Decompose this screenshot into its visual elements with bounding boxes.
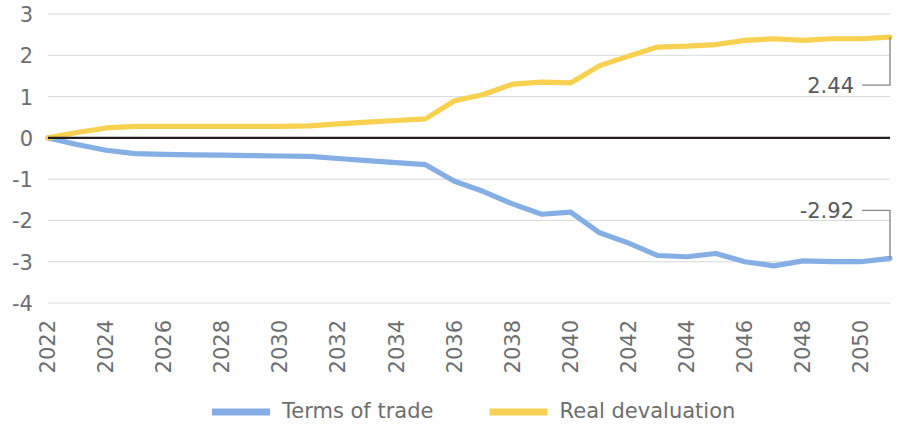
data-series [48, 37, 890, 266]
y-axis-tick-label: 3 [20, 3, 33, 27]
legend-label-2[interactable]: Real devaluation [560, 399, 736, 423]
annotation-value-label: 2.44 [807, 74, 854, 98]
chart-container: 3210-1-2-3-4 202220242026202820302032203… [0, 0, 903, 431]
x-axis-tick-label: 2042 [617, 320, 641, 373]
legend-label-1[interactable]: Terms of trade [281, 399, 433, 423]
series-line-2 [48, 37, 890, 138]
x-axis-tick-label: 2044 [675, 320, 699, 373]
annotation-leader-line [862, 210, 890, 258]
x-axis-tick-label: 2024 [94, 320, 118, 373]
x-axis-tick-labels: 2022202420262028203020322034203620382040… [36, 320, 873, 373]
y-axis-tick-label: 0 [20, 127, 33, 151]
x-axis-tick-label: 2038 [501, 320, 525, 373]
x-axis-tick-label: 2032 [326, 320, 350, 373]
x-axis-tick-label: 2046 [733, 320, 757, 373]
x-axis-tick-label: 2028 [210, 320, 234, 373]
annotation-leader-line [862, 37, 890, 85]
x-axis-tick-label: 2034 [385, 320, 409, 373]
x-axis-tick-label: 2036 [443, 320, 467, 373]
x-axis-tick-label: 2050 [849, 320, 873, 373]
y-axis-tick-label: 2 [20, 44, 33, 68]
series-line-1 [48, 138, 890, 266]
y-axis-tick-label: -3 [12, 251, 33, 275]
line-chart: 3210-1-2-3-4 202220242026202820302032203… [0, 0, 903, 431]
x-axis-tick-label: 2026 [152, 320, 176, 373]
y-axis-tick-label: -1 [12, 168, 33, 192]
x-axis-tick-label: 2022 [36, 320, 60, 373]
y-axis-tick-label: -2 [12, 209, 33, 233]
x-axis-tick-label: 2030 [268, 320, 292, 373]
x-axis-tick-label: 2048 [791, 320, 815, 373]
y-axis-tick-labels: 3210-1-2-3-4 [12, 3, 33, 316]
y-axis-tick-label: -4 [12, 292, 33, 316]
annotation-value-label: -2.92 [800, 199, 854, 223]
y-axis-tick-label: 1 [20, 86, 33, 110]
value-annotations: 2.44-2.92 [800, 37, 890, 258]
x-axis-tick-label: 2040 [559, 320, 583, 373]
chart-legend[interactable]: Terms of tradeReal devaluation [212, 399, 735, 423]
gridlines [48, 14, 890, 303]
